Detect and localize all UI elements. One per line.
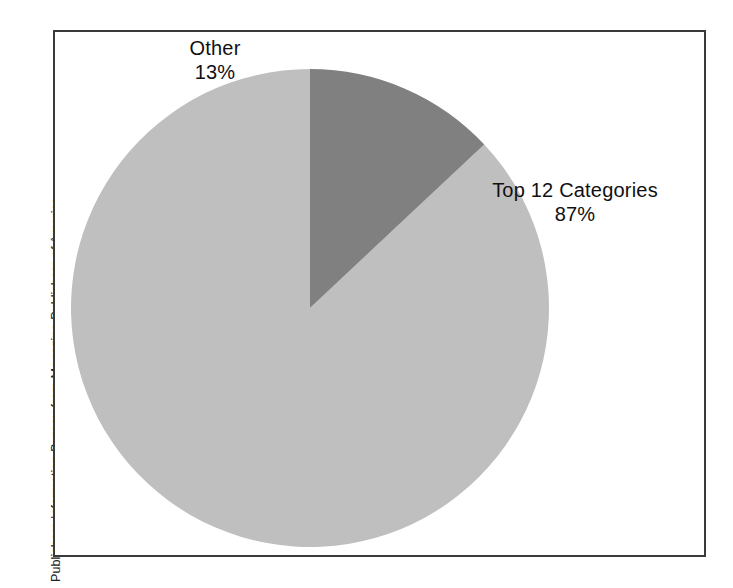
chart-screenshot: Publishers Information Bureau from Magaz…: [0, 0, 733, 588]
pie-label-other: Other 13%: [140, 36, 290, 85]
pie-label-other-value: 13%: [140, 60, 290, 84]
pie-label-top-12-categories-value: 87%: [470, 202, 680, 226]
pie-chart: [0, 0, 733, 588]
pie-label-top-12-categories: Top 12 Categories 87%: [470, 178, 680, 227]
pie-slices: [71, 69, 549, 547]
pie-label-other-name: Other: [140, 36, 290, 60]
pie-label-top-12-categories-name: Top 12 Categories: [470, 178, 680, 202]
